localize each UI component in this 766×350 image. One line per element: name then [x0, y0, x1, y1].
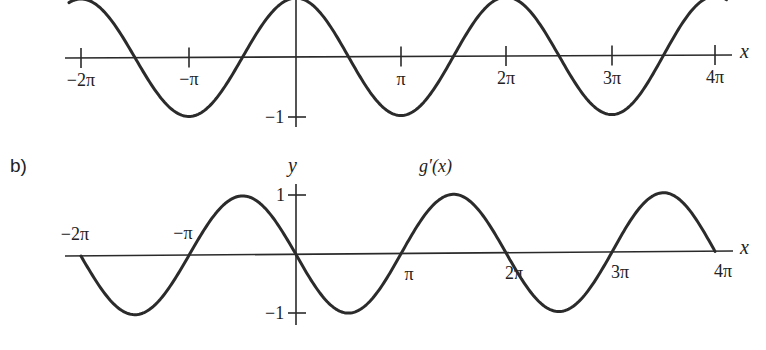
top-x-tick-label: 4π — [706, 67, 724, 87]
top-x-variable-label: x — [739, 40, 749, 62]
figure: −2π−ππ2π3π4π −1 x b) y g′(x) 1 −1 −2π−ππ… — [0, 0, 766, 350]
panel-b-label: b) — [10, 155, 27, 176]
bottom-x-tick-label: −2π — [61, 224, 89, 244]
bottom-x-tick-label: π — [404, 264, 413, 284]
bottom-x-variable-label: x — [739, 236, 749, 258]
bottom-x-tick-label: 3π — [611, 262, 629, 282]
top-x-tick-label: −2π — [67, 70, 95, 90]
top-ymin-label: −1 — [265, 107, 284, 127]
bottom-x-tick-label: 4π — [714, 261, 732, 281]
top-x-tick-label: 2π — [497, 68, 515, 88]
bottom-ymin-label: −1 — [265, 303, 284, 323]
top-x-axis — [65, 55, 732, 58]
top-x-ticks: −2π−ππ2π3π4π — [67, 45, 724, 90]
top-x-tick-label: 3π — [603, 68, 621, 88]
panel-a-chart: −2π−ππ2π3π4π −1 x — [65, 0, 749, 127]
bottom-function-label: g′(x) — [419, 156, 452, 177]
bottom-y-variable-label: y — [286, 154, 297, 177]
bottom-x-tick-label: −π — [173, 223, 192, 243]
panel-b-chart: y g′(x) 1 −1 −2π−ππ2π3π4π x — [61, 154, 749, 325]
top-x-tick-label: π — [396, 69, 405, 89]
top-x-tick-label: −π — [179, 69, 198, 89]
bottom-ymax-label: 1 — [276, 185, 285, 205]
